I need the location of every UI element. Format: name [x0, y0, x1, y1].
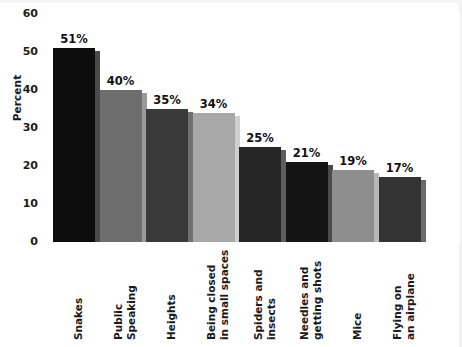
bar-group[interactable] — [100, 90, 147, 242]
bar-group[interactable] — [286, 162, 333, 242]
bar-body[interactable] — [100, 90, 142, 242]
x-axis-label: Spiders and insects — [252, 270, 277, 340]
figure-top-border — [0, 0, 462, 3]
y-axis-tick-0: 0 — [4, 235, 38, 248]
x-axis-label: Snakes — [72, 298, 85, 340]
bar-body[interactable] — [379, 177, 421, 242]
bar-body[interactable] — [286, 162, 328, 242]
bar-group[interactable] — [146, 109, 193, 242]
bar-chart-figure: Percent 0102030405060 51%40%35%34%25%21%… — [0, 0, 462, 347]
bar-value-label: 17% — [340, 161, 460, 175]
x-axis-label: Needles and getting shots — [298, 261, 323, 340]
plot-area: 51%40%35%34%25%21%19%17% — [46, 14, 460, 242]
y-axis-tick-10: 10 — [4, 197, 38, 210]
y-axis-tick-30: 30 — [4, 121, 38, 134]
bar-value-label: 40% — [61, 74, 181, 88]
x-axis-label: Flying on an airplane — [391, 273, 416, 340]
bar-value-label: 25% — [200, 131, 320, 145]
bar-value-label: 51% — [14, 32, 134, 46]
bar-group[interactable] — [239, 147, 286, 242]
x-axis-label: Being closed in small spaces — [205, 250, 230, 340]
bar-group[interactable] — [379, 177, 426, 242]
y-axis-tick-60: 60 — [4, 7, 38, 20]
bar-body[interactable] — [146, 109, 188, 242]
x-axis-label: Mice — [351, 313, 364, 340]
y-axis-tick-50: 50 — [4, 45, 38, 58]
bar-body[interactable] — [332, 170, 374, 242]
y-axis-tick-40: 40 — [4, 83, 38, 96]
bar-shadow — [421, 180, 426, 242]
bar-value-label: 34% — [154, 97, 274, 111]
x-axis-label: Public Speaking — [112, 285, 137, 340]
bar-body[interactable] — [239, 147, 281, 242]
bar-group[interactable] — [332, 170, 379, 242]
y-axis-tick-20: 20 — [4, 159, 38, 172]
x-axis-label: Heights — [165, 294, 178, 340]
